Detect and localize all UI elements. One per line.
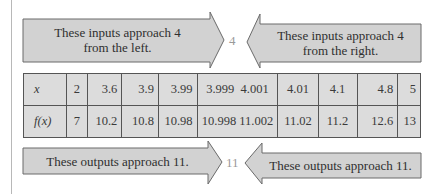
fx-cell-pair: 10.998 11.002 <box>197 106 278 138</box>
fx-cell: 10.2 <box>88 106 122 138</box>
fx-cell: 10.8 <box>122 106 159 138</box>
outputs-from-left-caption: These outputs approach 11. <box>30 154 205 169</box>
fx-cell: 7 <box>66 106 88 138</box>
x-cell: 5 <box>398 74 421 106</box>
x-cell-pair: 3.999 4.001 <box>197 74 278 106</box>
fx-cell: 11.2 <box>318 106 357 138</box>
caption-line: from the left. <box>30 40 205 55</box>
x-cell: 4.1 <box>318 74 357 106</box>
x-value: 4.001 <box>241 82 269 96</box>
x-value: 3.999 <box>206 82 234 96</box>
x-cell: 3.9 <box>122 74 159 106</box>
fx-cell: 10.98 <box>158 106 197 138</box>
inputs-from-right-caption: These inputs approach 4 from the right. <box>262 28 419 58</box>
x-cell: 3.99 <box>158 74 197 106</box>
x-cell: 4.01 <box>278 74 318 106</box>
caption-line: These inputs approach 4 <box>262 28 419 43</box>
fx-cell: 12.6 <box>357 106 398 138</box>
caption-line: from the right. <box>262 43 419 58</box>
x-cell: 3.6 <box>88 74 122 106</box>
table-row-fx: f(x) 7 10.2 10.8 10.98 10.998 11.002 11.… <box>24 106 421 138</box>
fx-cell: 11.02 <box>278 106 318 138</box>
fx-cell: 13 <box>398 106 421 138</box>
caption-line: These inputs approach 4 <box>30 25 205 40</box>
row-label-x: x <box>24 74 67 106</box>
outputs-from-right-caption: These outputs approach 11. <box>262 158 419 173</box>
x-cell: 4.8 <box>357 74 398 106</box>
inputs-from-left-caption: These inputs approach 4 from the left. <box>30 25 205 55</box>
x-cell: 2 <box>66 74 88 106</box>
fx-value: 11.002 <box>239 114 273 128</box>
fx-value: 10.998 <box>202 114 236 128</box>
x-limit-label: 4 <box>229 33 236 49</box>
value-table: x 2 3.6 3.9 3.99 3.999 4.001 4.01 4.1 4.… <box>23 73 421 138</box>
table-row-x: x 2 3.6 3.9 3.99 3.999 4.001 4.01 4.1 4.… <box>24 74 421 106</box>
y-limit-label: 11 <box>226 155 239 171</box>
row-label-fx: f(x) <box>24 106 67 138</box>
